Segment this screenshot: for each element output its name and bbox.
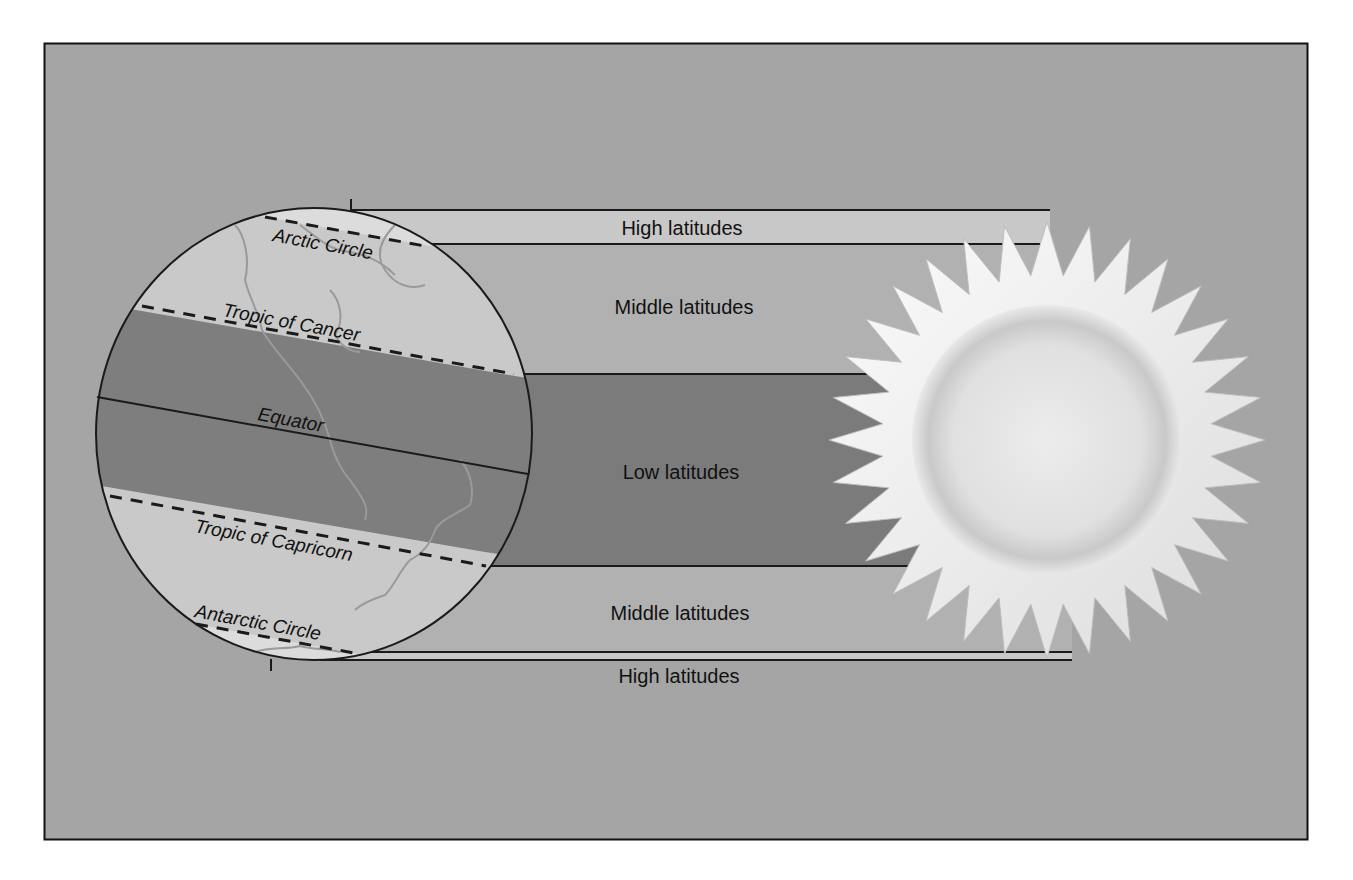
diagram-canvas: High latitudes Middle latitudes Low lati…: [0, 0, 1353, 880]
label-low-latitudes: Low latitudes: [623, 461, 740, 483]
label-middle-latitudes-top: Middle latitudes: [615, 296, 754, 318]
sun-core: [912, 305, 1182, 575]
latitude-diagram: High latitudes Middle latitudes Low lati…: [0, 0, 1353, 880]
band-high-bottom: [330, 652, 1072, 660]
label-middle-latitudes-bottom: Middle latitudes: [611, 602, 750, 624]
label-high-latitudes-top: High latitudes: [621, 217, 742, 239]
sun: [829, 222, 1265, 658]
label-high-latitudes-bottom: High latitudes: [618, 665, 739, 687]
